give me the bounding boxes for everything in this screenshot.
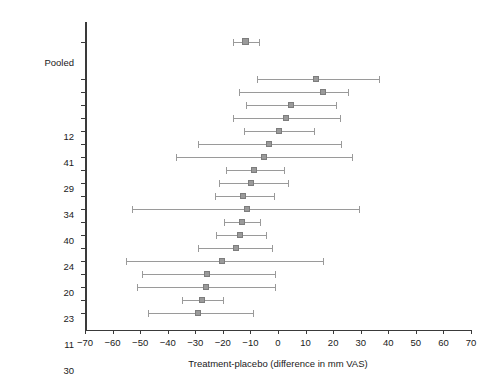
x-tick-label: 70: [466, 337, 477, 348]
x-tick-label: 30: [355, 337, 366, 348]
x-tick: [195, 330, 196, 334]
study-estimate-marker: [288, 102, 294, 108]
y-tick-label: 34: [63, 209, 74, 220]
y-tick: 28: [81, 274, 85, 275]
x-tick: [250, 330, 251, 334]
y-tick-label: 11: [64, 339, 74, 350]
confidence-interval-cap: [341, 141, 342, 148]
y-tick: 34: [81, 118, 85, 119]
y-tick: 32: [81, 287, 85, 288]
confidence-interval-cap: [132, 206, 133, 213]
x-tick: [113, 330, 114, 334]
y-tick-label: 24: [63, 261, 74, 272]
confidence-interval-cap: [275, 284, 276, 291]
study-estimate-marker: [248, 180, 254, 186]
confidence-interval-cap: [182, 297, 183, 304]
y-tick: 40: [81, 131, 85, 132]
forest-plot-figure: Reference no. Pooled12412934402420231130…: [0, 0, 501, 383]
x-tick-label: 60: [438, 337, 449, 348]
y-tick-label: 40: [63, 235, 74, 246]
x-tick-label: −40: [160, 337, 176, 348]
confidence-interval-cap: [216, 232, 217, 239]
study-estimate-marker: [233, 245, 239, 251]
x-tick-label: −20: [215, 337, 231, 348]
y-tick: 30: [81, 196, 85, 197]
x-tick-label: 50: [411, 337, 422, 348]
y-tick: 12: [81, 79, 85, 80]
x-tick-label: −50: [132, 337, 148, 348]
confidence-interval-line: [239, 92, 348, 93]
confidence-interval-cap: [348, 89, 349, 96]
confidence-interval-cap: [148, 310, 149, 317]
confidence-interval-cap: [176, 154, 177, 161]
y-tick-label: 23: [63, 313, 74, 324]
study-estimate-marker: [204, 271, 210, 277]
x-tick-label: 40: [383, 337, 394, 348]
plot-area: Pooled1241293440242023113031273322528322…: [85, 22, 471, 330]
confidence-interval-cap: [246, 102, 247, 109]
y-tick-label: 30: [63, 365, 74, 376]
x-tick-label: 20: [328, 337, 339, 348]
confidence-interval-cap: [352, 154, 353, 161]
confidence-interval-cap: [239, 89, 240, 96]
y-tick-label: Pooled: [44, 57, 74, 68]
study-estimate-marker: [203, 284, 209, 290]
y-tick: 20: [81, 157, 85, 158]
confidence-interval-cap: [266, 232, 267, 239]
study-estimate-marker: [195, 310, 201, 316]
confidence-interval-cap: [253, 310, 254, 317]
y-tick: 2: [81, 248, 85, 249]
confidence-interval-cap: [142, 271, 143, 278]
confidence-interval-cap: [379, 76, 380, 83]
y-tick: 23: [81, 170, 85, 171]
confidence-interval-cap: [314, 128, 315, 135]
x-tick: [223, 330, 224, 334]
y-tick: 24: [81, 144, 85, 145]
study-estimate-marker: [251, 167, 257, 173]
confidence-interval-cap: [233, 39, 234, 46]
confidence-interval-cap: [284, 167, 285, 174]
confidence-interval-cap: [259, 39, 260, 46]
study-estimate-marker: [199, 297, 205, 303]
y-tick-label: 29: [63, 183, 74, 194]
study-estimate-marker: [244, 206, 250, 212]
y-tick: 19: [81, 313, 85, 314]
confidence-interval-cap: [260, 219, 261, 226]
y-tick-label: 41: [63, 157, 74, 168]
x-tick-label: 10: [300, 337, 311, 348]
confidence-interval-cap: [137, 284, 138, 291]
confidence-interval-cap: [244, 128, 245, 135]
x-tick: [168, 330, 169, 334]
confidence-interval-cap: [224, 219, 225, 226]
confidence-interval-cap: [323, 258, 324, 265]
y-tick: 29: [81, 105, 85, 106]
y-tick-label: 12: [63, 131, 74, 142]
confidence-interval-line: [148, 313, 253, 314]
confidence-interval-cap: [257, 76, 258, 83]
confidence-interval-cap: [233, 115, 234, 122]
x-tick: [388, 330, 389, 334]
x-tick: [140, 330, 141, 334]
confidence-interval-cap: [215, 193, 216, 200]
confidence-interval-cap: [288, 180, 289, 187]
study-estimate-marker: [266, 141, 272, 147]
study-estimate-marker: [276, 128, 282, 134]
x-tick-label: −60: [105, 337, 121, 348]
y-tick: 33: [81, 235, 85, 236]
x-tick-label: 0: [275, 337, 280, 348]
confidence-interval-cap: [126, 258, 127, 265]
x-tick: [85, 330, 86, 334]
confidence-interval-cap: [198, 245, 199, 252]
x-tick: [306, 330, 307, 334]
x-tick: [443, 330, 444, 334]
confidence-interval-cap: [219, 180, 220, 187]
study-estimate-marker: [239, 219, 245, 225]
x-tick-label: −10: [242, 337, 258, 348]
y-axis-title: Reference no.: [6, 0, 34, 28]
x-tick-label: −70: [77, 337, 93, 348]
pooled-estimate-marker: [242, 38, 249, 45]
confidence-interval-cap: [198, 141, 199, 148]
y-tick: 25: [81, 261, 85, 262]
x-tick: [416, 330, 417, 334]
y-tick: 31: [81, 209, 85, 210]
